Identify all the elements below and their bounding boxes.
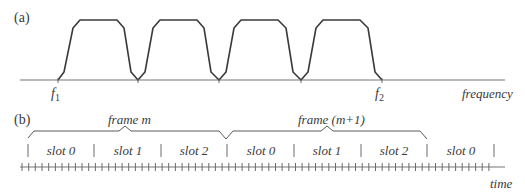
frequency-axis-label: frequency (462, 86, 513, 101)
panel-a-label: (a) (14, 10, 30, 26)
slot-label: slot 1 (114, 143, 143, 158)
slot-label: slot 1 (313, 143, 342, 158)
f1-label: f1 (51, 86, 60, 103)
panel-b-label: (b) (14, 112, 31, 128)
fdma-tdma-diagram: (a) f1 f2 frequency (b) frame m frame (m… (0, 0, 525, 194)
slot-label: slot 2 (180, 143, 209, 158)
slot-label: slot 0 (247, 143, 276, 158)
frame-m-label: frame m (108, 112, 151, 127)
channel-spectrum-curve (58, 20, 382, 80)
frame-m1-label: frame (m+1) (298, 112, 365, 127)
slot-label: slot 2 (380, 143, 409, 158)
frame-m-bracket (28, 126, 226, 139)
f2-label: f2 (375, 86, 384, 103)
slot-label: slot 0 (447, 143, 476, 158)
time-axis-label: time (490, 176, 513, 191)
slot-label: slot 0 (47, 143, 76, 158)
frame-m1-bracket (226, 126, 427, 139)
